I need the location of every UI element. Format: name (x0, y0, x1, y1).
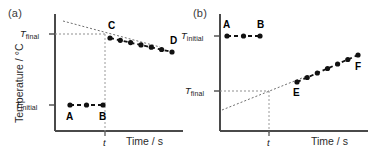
y-tick-label-initial-b: Tinitial (181, 31, 203, 41)
data-point (107, 35, 112, 40)
y-axis-title-a: Temperature / °C (14, 44, 25, 123)
y-tick-label-final-a: Tfinal (20, 29, 39, 39)
data-point (335, 61, 340, 66)
data-point (100, 102, 105, 107)
y-tick-label-initial-a-sub: initial (21, 104, 38, 111)
y-tick-label-final-a-sub: final (26, 33, 39, 40)
figure-root: (a) Temperature / °C Tfinal Tinitial t T… (0, 0, 370, 154)
y-tick-label-initial-a-base: T (15, 99, 21, 110)
data-point (159, 47, 164, 52)
x-tick-label-t-b: t (267, 138, 270, 148)
panel-tag-b: (b) (193, 8, 207, 19)
data-point (128, 40, 133, 45)
point-label-b1: B (99, 112, 106, 122)
data-point (118, 38, 123, 43)
y-tick-label-final-b-base: T (185, 85, 191, 96)
panel-tag-a: (a) (8, 8, 22, 19)
point-label-e: E (293, 88, 300, 98)
data-point (355, 52, 360, 57)
data-point (169, 49, 174, 54)
point-label-f: F (355, 62, 361, 72)
panel-a: (a) Temperature / °C Tfinal Tinitial t T… (0, 0, 185, 154)
panel-b: (b) Tinitial Tfinal t Time / s A B E F (185, 0, 370, 154)
data-point (138, 42, 143, 47)
y-tick-label-initial-b-sub: initial (187, 35, 204, 42)
data-point (257, 33, 262, 38)
data-point (84, 102, 89, 107)
point-label-a2: A (223, 20, 230, 30)
x-axis-title-a: Time / s (126, 136, 163, 147)
x-tick-label-t-a: t (103, 138, 106, 148)
panel-b-plot (185, 0, 370, 154)
x-axis-title-b: Time / s (311, 136, 348, 147)
data-point (345, 57, 350, 62)
y-tick-label-initial-b-base: T (181, 30, 187, 41)
data-point (67, 102, 72, 107)
data-point (294, 79, 299, 84)
panel-a-plot (0, 0, 185, 154)
data-point (315, 70, 320, 75)
point-label-d: D (170, 36, 177, 46)
y-tick-label-initial-a: Tinitial (15, 100, 37, 110)
data-point (305, 75, 310, 80)
data-point (149, 45, 154, 50)
data-point (325, 66, 330, 71)
data-point (241, 33, 246, 38)
y-tick-label-final-b: Tfinal (185, 86, 204, 96)
y-tick-label-final-b-sub: final (191, 90, 204, 97)
point-label-b2: B (257, 20, 264, 30)
point-label-c: C (108, 21, 115, 31)
point-label-a1: A (66, 112, 73, 122)
y-tick-label-final-a-base: T (20, 28, 26, 39)
data-point (224, 33, 229, 38)
